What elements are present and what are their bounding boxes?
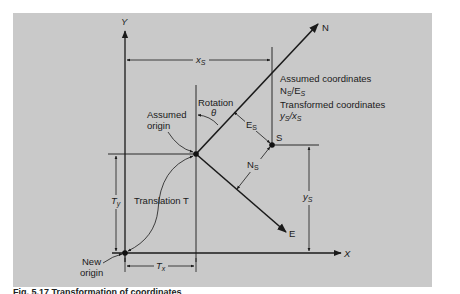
assumed-origin-label-line1: Assumed — [147, 109, 187, 120]
n-axis-label: N — [322, 22, 329, 33]
point-s — [269, 142, 275, 148]
transformed-coordinates-title: Transformed coordinates — [280, 99, 386, 110]
assumed-origin-label-line2: origin — [147, 120, 170, 131]
theta-label: θ — [211, 107, 217, 118]
x-axis-label: X — [343, 248, 351, 259]
y-axis-label: Y — [121, 16, 128, 27]
e-axis-label: E — [289, 228, 295, 239]
transformed-coordinates-value: yS/xS — [279, 110, 302, 122]
assumed-coordinates-title: Assumed coordinates — [280, 73, 372, 84]
new-origin-point — [122, 250, 128, 256]
assumed-coordinates-value: NS/ES — [280, 85, 306, 97]
new-origin-label-line2: origin — [80, 267, 103, 278]
coordinate-transformation-diagram: Y X N E S xS yS ES NS Ty Tx Rotation θ — [0, 0, 460, 294]
new-origin-label-line1: New — [82, 256, 101, 267]
assumed-origin-point — [193, 151, 199, 157]
e-axis — [196, 154, 286, 232]
figure-caption: Fig. 5.17 Transformation of coordinates — [13, 288, 182, 294]
new-origin-leader — [103, 254, 122, 263]
translation-label: Translation T — [134, 195, 189, 206]
assumed-origin-leader — [168, 132, 193, 152]
point-s-label: S — [276, 132, 282, 143]
